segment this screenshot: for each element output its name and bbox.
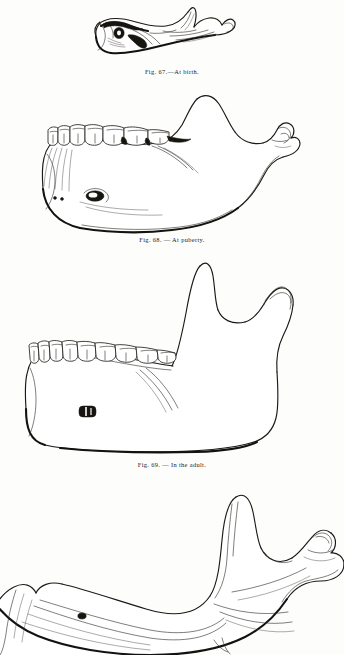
puberty-mandible-drawing xyxy=(0,88,344,236)
anatomical-plate: Fig. 67.—At birth. xyxy=(0,0,344,655)
figure-caption-at-birth: Fig. 67.—At birth. xyxy=(0,68,344,75)
mental-foramen-adult xyxy=(79,406,96,417)
old-age-mandible-drawing xyxy=(0,484,344,655)
figure-in-the-adult: Fig. 69. — In the adult. xyxy=(0,258,344,480)
adult-mandible-drawing xyxy=(0,258,344,461)
figure-at-puberty: Fig. 68. — At puberty. xyxy=(0,88,344,254)
figure-at-puberty-illustration xyxy=(0,88,344,236)
tooth-row-puberty xyxy=(48,125,169,146)
infant-mandible-drawing xyxy=(0,0,344,66)
figure-in-the-adult-illustration xyxy=(0,258,344,461)
figure-caption-at-puberty: Fig. 68. — At puberty. xyxy=(0,236,344,243)
figure-at-birth: Fig. 67.—At birth. xyxy=(0,0,344,85)
figure-in-old-age-illustration xyxy=(0,484,344,655)
figure-at-birth-illustration xyxy=(0,0,344,66)
mental-foramen-old-age xyxy=(78,613,86,619)
figure-caption-in-the-adult: Fig. 69. — In the adult. xyxy=(0,461,344,468)
figure-in-old-age xyxy=(0,484,344,655)
